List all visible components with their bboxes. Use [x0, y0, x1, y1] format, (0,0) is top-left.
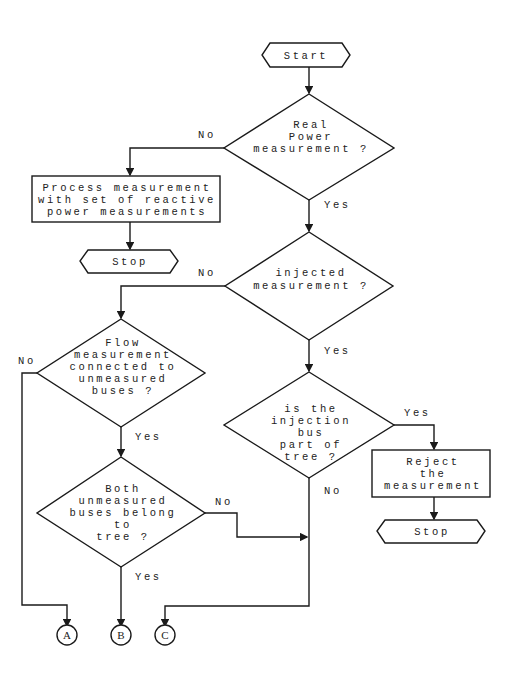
svg-text:Yes: Yes: [135, 571, 162, 583]
svg-text:Yes: Yes: [135, 431, 162, 443]
svg-text:injected: injected: [275, 267, 346, 279]
svg-text:No: No: [198, 267, 216, 279]
svg-text:the: the: [420, 468, 447, 480]
decision-real-power: Real Power measurement ?: [224, 94, 394, 200]
svg-text:with set of reactive: with set of reactive: [38, 194, 216, 206]
decision-both-buses: Both unmeasured buses belong to tree ?: [37, 457, 205, 567]
svg-text:No: No: [18, 355, 36, 367]
stop-terminal-1: Stop: [80, 250, 178, 273]
svg-text:injection: injection: [271, 415, 351, 427]
yes-label: Yes: [324, 199, 351, 211]
svg-text:Yes: Yes: [404, 407, 431, 419]
connector-c: C: [155, 625, 175, 645]
svg-text:bus: bus: [298, 427, 325, 439]
svg-text:Both: Both: [105, 483, 141, 495]
svg-text:unmeasured: unmeasured: [78, 373, 167, 385]
svg-text:measurement: measurement: [384, 480, 482, 492]
decision-injection-bus: is the injection bus part of tree ?: [224, 372, 394, 478]
svg-text:tree ?: tree ?: [284, 451, 337, 463]
svg-text:unmeasured: unmeasured: [78, 495, 167, 507]
svg-text:measurement ?: measurement ?: [253, 280, 369, 292]
svg-text:Stop: Stop: [414, 526, 450, 538]
no-label: No: [198, 129, 216, 141]
svg-text:C: C: [161, 629, 168, 641]
connector-a: A: [57, 625, 77, 645]
stop-terminal-2: Stop: [377, 520, 485, 543]
svg-text:buses ?: buses ?: [92, 385, 154, 397]
svg-text:is the: is the: [284, 403, 337, 415]
svg-text:buses belong: buses belong: [70, 507, 177, 519]
decision-flow-measurement: Flow measurement connected to unmeasured…: [37, 319, 205, 427]
svg-text:part of: part of: [280, 439, 342, 451]
svg-text:No: No: [324, 485, 342, 497]
svg-text:Stop: Stop: [112, 256, 148, 268]
svg-text:to: to: [114, 519, 132, 531]
svg-text:No: No: [215, 496, 233, 508]
start-terminal: Start: [262, 43, 350, 67]
svg-text:Real: Real: [293, 119, 329, 131]
svg-text:Process measurement: Process measurement: [42, 182, 211, 194]
svg-text:A: A: [63, 629, 71, 641]
svg-text:power measurements: power measurements: [47, 206, 207, 218]
svg-text:Yes: Yes: [324, 345, 351, 357]
svg-text:Power: Power: [289, 131, 334, 143]
svg-text:connected to: connected to: [70, 361, 177, 373]
process-reject-box: Reject the measurement: [372, 450, 490, 497]
svg-text:measurement: measurement: [74, 349, 172, 361]
process-reactive-box: Process measurement with set of reactive…: [32, 176, 220, 222]
svg-text:Flow: Flow: [105, 337, 141, 349]
connector-b: B: [111, 625, 131, 645]
svg-text:measurement ?: measurement ?: [253, 143, 369, 155]
svg-text:B: B: [117, 629, 124, 641]
svg-text:tree ?: tree ?: [96, 531, 149, 543]
decision-injected: injected measurement ?: [225, 232, 393, 340]
start-label: Start: [284, 50, 329, 62]
flowchart: Start Real Power measurement ? No Yes Pr…: [0, 0, 520, 682]
svg-text:Reject: Reject: [406, 456, 459, 468]
